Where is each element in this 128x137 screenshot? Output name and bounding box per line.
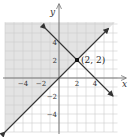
y-tick-label: −4 xyxy=(47,111,58,119)
graph-figure: −4−22442−2−4xy(2, 2) xyxy=(0,0,128,137)
x-tick-label: −2 xyxy=(36,80,46,88)
y-tick-label: 2 xyxy=(53,57,57,65)
x-tick-label: 2 xyxy=(75,80,79,88)
x-tick-label: −4 xyxy=(18,80,29,88)
intersection-point xyxy=(75,58,79,62)
intersection-label: (2, 2) xyxy=(81,55,105,65)
y-axis-label: y xyxy=(49,7,56,17)
coordinate-plane: −4−22442−2−4xy(2, 2) xyxy=(0,0,128,137)
x-tick-label: 4 xyxy=(93,80,98,88)
x-axis-label: x xyxy=(122,79,127,89)
y-tick-label: −2 xyxy=(47,93,57,101)
y-tick-label: 4 xyxy=(53,39,58,47)
